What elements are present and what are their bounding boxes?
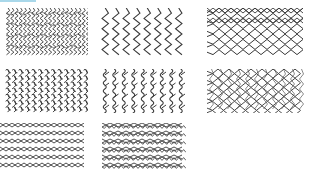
pattern-thumbnail-diamond-loops — [207, 8, 303, 56]
pattern-thumbnail-dense-zigzag-vertical — [6, 8, 88, 56]
top-accent-bar — [0, 0, 36, 2]
mesh-pattern-graphic — [207, 69, 305, 113]
pattern-thumbnail-zigzag-diamond-lattice — [102, 123, 186, 170]
pattern-thumbnail-overlapping-diamonds — [207, 69, 305, 113]
pattern-thumbnail-open-diamond-lattice — [0, 123, 86, 170]
pattern-thumbnail-vertical-chevron-columns — [100, 8, 186, 56]
mesh-pattern-graphic — [6, 8, 88, 56]
mesh-pattern-graphic — [102, 123, 186, 170]
mesh-pattern-graphic — [207, 8, 303, 56]
mesh-pattern-graphic — [100, 8, 186, 56]
mesh-pattern-graphic — [100, 69, 186, 113]
pattern-thumbnail-wavy-hook-columns — [100, 69, 186, 113]
mesh-pattern-graphic — [5, 69, 88, 113]
pattern-thumbnail-hook-link-mesh — [5, 69, 88, 113]
mesh-pattern-graphic — [0, 123, 86, 170]
